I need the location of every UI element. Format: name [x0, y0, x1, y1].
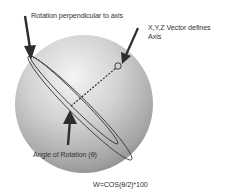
label-axis: Axis: [148, 33, 161, 41]
label-vector-defines-axis: X,Y,Z Vector defines: [148, 24, 211, 32]
rotation-perpendicular-arrow: [24, 16, 36, 60]
label-angle-of-rotation: Angle of Rotation (θ): [33, 151, 97, 159]
label-rotation-perpendicular: Rotation perpendicular to axis: [31, 12, 123, 20]
label-formula: W=COS(θ/2)*100: [93, 181, 148, 189]
